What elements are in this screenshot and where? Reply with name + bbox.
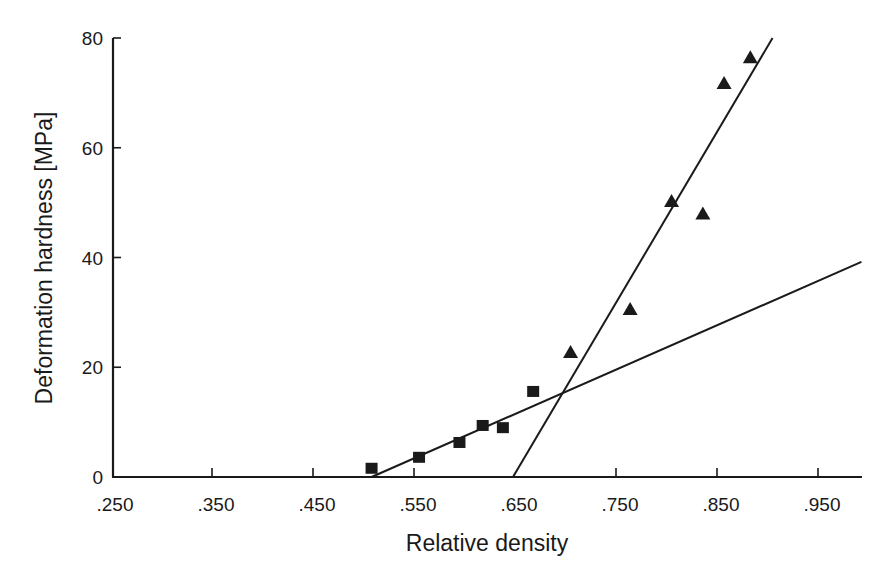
x-tick-label: .950 bbox=[804, 494, 841, 515]
data-points bbox=[366, 50, 758, 474]
x-tick-label: .750 bbox=[602, 494, 639, 515]
fit-lines bbox=[372, 38, 862, 477]
triangle-marker bbox=[623, 302, 638, 315]
x-axis-ticks: .250.350.450.550.650.750.850.950 bbox=[97, 468, 841, 515]
fit-line bbox=[372, 262, 862, 477]
triangle-marker bbox=[717, 76, 732, 89]
y-tick-label: 40 bbox=[82, 248, 103, 269]
square-marker bbox=[497, 422, 509, 433]
axes bbox=[112, 38, 862, 477]
y-axis-ticks: 020406080 bbox=[82, 28, 121, 488]
square-marker bbox=[413, 452, 425, 463]
y-tick-label: 0 bbox=[92, 467, 103, 488]
y-tick-label: 80 bbox=[82, 28, 103, 49]
x-tick-label: .450 bbox=[299, 494, 336, 515]
fit-line bbox=[513, 38, 773, 477]
square-marker bbox=[477, 420, 489, 431]
square-marker bbox=[527, 386, 539, 397]
square-marker bbox=[366, 463, 378, 474]
x-tick-label: .250 bbox=[97, 494, 134, 515]
x-axis-title: Relative density bbox=[406, 530, 569, 556]
x-tick-label: .550 bbox=[400, 494, 437, 515]
triangle-marker bbox=[695, 207, 710, 220]
x-tick-label: .350 bbox=[198, 494, 235, 515]
x-tick-label: .850 bbox=[703, 494, 740, 515]
triangle-marker bbox=[563, 345, 578, 358]
chart: 020406080 .250.350.450.550.650.750.850.9… bbox=[0, 0, 891, 581]
y-tick-label: 60 bbox=[82, 138, 103, 159]
square-marker bbox=[453, 437, 465, 448]
x-tick-label: .650 bbox=[501, 494, 538, 515]
triangle-marker bbox=[743, 50, 758, 63]
y-axis-title: Deformation hardness [MPa] bbox=[31, 112, 57, 405]
y-tick-label: 20 bbox=[82, 357, 103, 378]
